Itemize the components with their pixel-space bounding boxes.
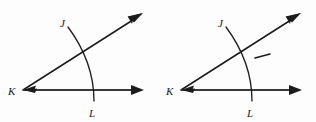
- label-k: K: [165, 85, 174, 97]
- label-l: L: [246, 107, 253, 119]
- label-l: L: [88, 107, 95, 119]
- label-j: J: [60, 17, 66, 29]
- ray-kl: [181, 85, 302, 95]
- figure-angle-jkl-plain: J K L: [0, 0, 158, 122]
- figure-sheet: J K L J K L: [0, 0, 316, 122]
- label-j: J: [218, 17, 224, 29]
- label-k: K: [7, 85, 16, 97]
- ray-kl: [23, 85, 144, 95]
- figure-angle-jkl-with-tick: J K L: [158, 0, 316, 122]
- tick-mark-icon: [255, 54, 270, 58]
